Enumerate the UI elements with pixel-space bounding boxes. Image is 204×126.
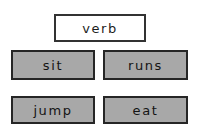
prompt-card-label: verb	[82, 21, 118, 34]
option-card-label: sit	[43, 58, 63, 71]
option-card-sit[interactable]: sit	[11, 50, 95, 80]
option-card-jump[interactable]: jump	[11, 96, 95, 124]
option-card-label: runs	[128, 58, 163, 71]
option-card-runs[interactable]: runs	[103, 50, 188, 80]
prompt-card-verb: verb	[54, 14, 146, 42]
option-card-label: jump	[33, 103, 72, 116]
word-card-canvas: verb sit runs jump eat	[0, 0, 204, 126]
option-card-label: eat	[133, 103, 159, 116]
option-card-eat[interactable]: eat	[103, 96, 188, 124]
